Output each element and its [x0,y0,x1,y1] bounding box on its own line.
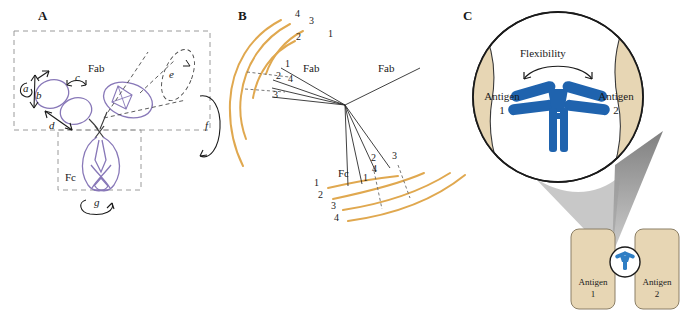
magnified-antigen-1-name: Antigen [471,90,533,104]
overview-antigen-1-name: Antigen [566,277,620,288]
magnified-antigen-2-number: 2 [585,104,647,118]
overview-antigen-2-number: 2 [630,289,684,300]
flexibility-label: Flexibility [520,47,566,59]
magnified-antigen-1-number: 1 [471,104,533,118]
overview-antigen-1-number: 1 [566,289,620,300]
overview-antigen-2-name: Antigen [630,277,684,288]
magnified-antigen-2-name: Antigen [585,90,647,104]
panel-c-graphics [0,0,697,318]
antibody-flexibility-figure: A [0,0,697,318]
